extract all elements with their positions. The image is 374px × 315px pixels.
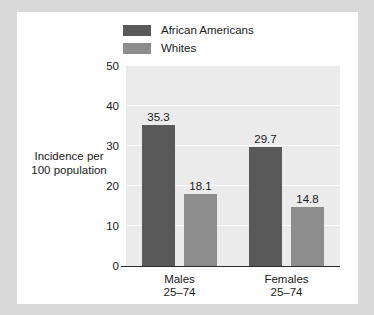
bar: 14.8 [291,207,324,266]
x-axis-line [121,266,340,268]
bar-value-label: 18.1 [189,180,211,192]
legend-swatch-african-americans [123,25,151,36]
bar-value-label: 35.3 [147,111,169,123]
legend-item-african-americans: African Americans [123,22,254,38]
y-axis-tick-label: 50 [106,60,119,72]
legend-item-whites: Whites [123,40,254,56]
bar: 18.1 [184,194,217,266]
legend-label-whites: Whites [161,43,196,54]
y-axis-tick-label: 10 [106,220,119,232]
gridline [126,65,340,66]
chart-legend: African Americans Whites [123,22,254,58]
y-axis-title: Incidence per 100 population [17,149,121,177]
y-axis-tick-label: 0 [113,260,119,272]
bar: 35.3 [142,125,175,266]
y-axis-tick-label: 20 [106,180,119,192]
x-axis-category-line2: 25–74 [264,286,308,299]
x-axis-category-line1: Females [264,273,308,286]
y-axis-tick-label: 40 [106,100,119,112]
x-axis-category-label: Males25–74 [164,273,196,299]
gridline [126,105,340,106]
legend-label-african-americans: African Americans [161,25,254,36]
plot-wrapper: 01020304050 35.318.129.714.8 Males25–74F… [126,66,340,266]
bar-value-label: 14.8 [296,193,318,205]
x-axis-category-line1: Males [164,273,196,286]
x-axis-category-label: Females25–74 [264,273,308,299]
bar: 29.7 [249,147,282,266]
chart-card: African Americans Whites Incidence per 1… [17,12,358,304]
legend-swatch-whites [123,43,151,54]
y-axis-tick-label: 30 [106,140,119,152]
bar-value-label: 29.7 [254,133,276,145]
y-axis-title-line2: 100 population [17,163,121,177]
x-axis-category-line2: 25–74 [164,286,196,299]
